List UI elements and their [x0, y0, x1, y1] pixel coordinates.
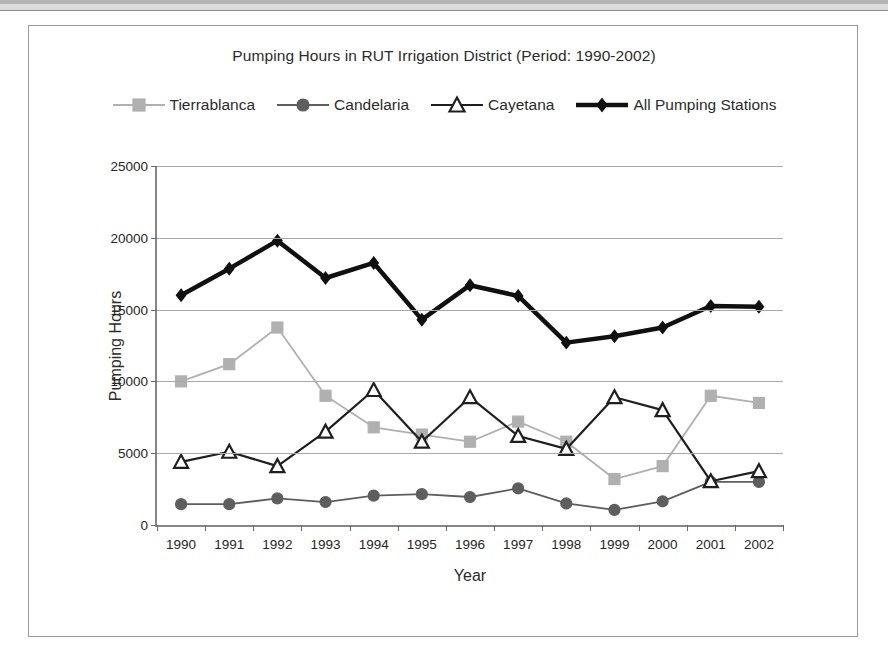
- y-tick-mark: [151, 381, 157, 382]
- x-tick-label: 1998: [551, 537, 581, 552]
- y-tick-label: 0: [140, 518, 148, 533]
- data-point-marker: [465, 436, 476, 447]
- data-point-marker: [753, 397, 764, 408]
- plot-area: Pumping Hours Year 050001000015000200002…: [155, 166, 783, 527]
- series-cayetana: [174, 383, 766, 487]
- x-tick-label: 1997: [503, 537, 533, 552]
- x-tick-mark: [783, 525, 784, 531]
- x-tick-mark: [157, 525, 158, 531]
- y-tick-mark: [151, 310, 157, 311]
- triangle-marker-icon: [430, 94, 484, 116]
- x-tick-label: 2001: [696, 537, 726, 552]
- x-tick-mark: [446, 525, 447, 531]
- x-tick-label: 1995: [407, 537, 437, 552]
- x-tick-mark: [542, 525, 543, 531]
- x-tick-label: 1992: [262, 537, 292, 552]
- x-tick-mark: [639, 525, 640, 531]
- data-point-marker: [610, 330, 619, 342]
- data-point-marker: [609, 474, 620, 485]
- x-tick-label: 1996: [455, 537, 485, 552]
- gridline-y: [157, 381, 783, 382]
- data-point-marker: [607, 390, 621, 403]
- x-tick-label: 1999: [599, 537, 629, 552]
- scanner-edge-dark-strip: [0, 0, 888, 4]
- data-point-marker: [463, 390, 477, 403]
- x-tick-label: 2000: [648, 537, 678, 552]
- data-point-marker: [133, 99, 145, 111]
- data-point-marker: [320, 390, 331, 401]
- legend-item-all-pumping-stations[interactable]: All Pumping Stations: [575, 94, 776, 116]
- x-tick-mark: [253, 525, 254, 531]
- x-tick-mark: [301, 525, 302, 531]
- data-point-marker: [368, 490, 379, 501]
- series-candelaria: [176, 476, 765, 515]
- y-tick-mark: [151, 166, 157, 167]
- y-tick-label: 25000: [110, 159, 148, 174]
- x-tick-label: 1993: [311, 537, 341, 552]
- series-layer: [157, 166, 783, 525]
- x-tick-mark: [590, 525, 591, 531]
- gridline-y: [157, 453, 783, 454]
- x-tick-mark: [398, 525, 399, 531]
- square-marker-icon: [112, 94, 166, 116]
- gridline-y: [157, 166, 783, 167]
- data-point-marker: [465, 491, 476, 502]
- data-point-marker: [222, 445, 236, 458]
- x-tick-mark: [205, 525, 206, 531]
- chart-legend: TierrablancaCandelariaCayetanaAll Pumpin…: [29, 94, 859, 116]
- data-point-marker: [367, 383, 381, 396]
- chart-title: Pumping Hours in RUT Irrigation District…: [29, 47, 859, 65]
- data-point-marker: [658, 322, 667, 334]
- data-point-marker: [272, 493, 283, 504]
- gridline-y: [157, 310, 783, 311]
- data-point-marker: [416, 489, 427, 500]
- data-point-marker: [754, 301, 763, 313]
- legend-label: Cayetana: [488, 96, 554, 114]
- x-axis-title: Year: [157, 567, 783, 585]
- data-point-marker: [597, 99, 607, 112]
- y-tick-label: 20000: [110, 230, 148, 245]
- data-point-marker: [657, 496, 668, 507]
- data-point-marker: [176, 499, 187, 510]
- y-tick-mark: [151, 453, 157, 454]
- data-point-marker: [297, 99, 309, 111]
- legend-label: Candelaria: [334, 96, 409, 114]
- data-point-marker: [272, 322, 283, 333]
- data-point-marker: [513, 483, 524, 494]
- figure-frame: Pumping Hours in RUT Irrigation District…: [28, 25, 858, 637]
- x-tick-label: 1990: [166, 537, 196, 552]
- x-tick-label: 1994: [359, 537, 389, 552]
- diamond-marker-icon: [575, 94, 629, 116]
- data-point-marker: [609, 504, 620, 515]
- data-point-marker: [561, 498, 572, 509]
- data-point-marker: [752, 464, 766, 477]
- legend-item-tierrablanca[interactable]: Tierrablanca: [112, 94, 256, 116]
- legend-item-cayetana[interactable]: Cayetana: [430, 94, 554, 116]
- data-point-marker: [705, 390, 716, 401]
- x-tick-mark: [494, 525, 495, 531]
- y-tick-label: 5000: [118, 446, 148, 461]
- data-point-marker: [320, 497, 331, 508]
- legend-label: All Pumping Stations: [633, 96, 776, 114]
- x-tick-mark: [687, 525, 688, 531]
- series-all-pumping-stations: [176, 235, 763, 349]
- x-tick-mark: [735, 525, 736, 531]
- data-point-marker: [657, 461, 668, 472]
- x-tick-mark: [350, 525, 351, 531]
- y-tick-label: 15000: [110, 302, 148, 317]
- x-tick-label: 1991: [214, 537, 244, 552]
- data-point-marker: [224, 499, 235, 510]
- data-point-marker: [513, 416, 524, 427]
- x-tick-label: 2002: [744, 537, 774, 552]
- y-tick-label: 10000: [110, 374, 148, 389]
- legend-label: Tierrablanca: [170, 96, 256, 114]
- data-point-marker: [368, 422, 379, 433]
- gridline-y: [157, 238, 783, 239]
- circle-marker-icon: [276, 94, 330, 116]
- legend-item-candelaria[interactable]: Candelaria: [276, 94, 409, 116]
- y-tick-mark: [151, 238, 157, 239]
- scanner-edge-band: [0, 0, 888, 11]
- data-point-marker: [224, 359, 235, 370]
